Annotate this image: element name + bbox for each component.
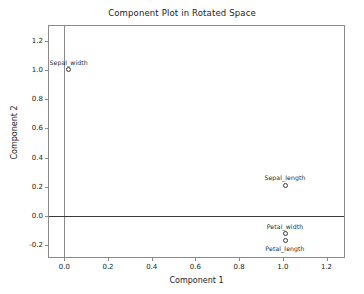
y-axis-title: Component 2 [10, 83, 19, 183]
x-tick-mark [152, 257, 153, 261]
x-axis-title: Component 1 [48, 276, 345, 285]
y-tick-label: 1.2 [32, 37, 43, 45]
y-tick-label: -0.2 [29, 241, 43, 249]
component-plot-figure: Component Plot in Rotated Space 0.00.20.… [0, 0, 364, 294]
y-tick-label: 0.4 [32, 154, 43, 162]
chart-title: Component Plot in Rotated Space [0, 8, 364, 18]
data-point-label: Sepal_length [264, 174, 305, 181]
x-tick-mark [327, 257, 328, 261]
y-tick-label: 0.6 [32, 124, 43, 132]
data-point[interactable] [66, 67, 71, 72]
x-tick-label: 0.8 [234, 263, 245, 271]
y-tick-label: 1.0 [32, 66, 43, 74]
y-tick-label: 0.2 [32, 183, 43, 191]
reference-line-horizontal [49, 216, 344, 217]
data-point[interactable] [283, 231, 288, 236]
x-tick-mark [239, 257, 240, 261]
data-point[interactable] [283, 183, 288, 188]
x-tick-mark [195, 257, 196, 261]
x-tick-label: 0.2 [102, 263, 113, 271]
data-point-label: Petal_length [265, 245, 304, 252]
x-tick-mark [64, 257, 65, 261]
data-point-label: Sepal_width [49, 59, 87, 66]
x-tick-label: 0.0 [59, 263, 70, 271]
x-tick-mark [108, 257, 109, 261]
y-tick-mark [45, 158, 49, 159]
y-tick-mark [45, 128, 49, 129]
y-tick-mark [45, 41, 49, 42]
x-tick-label: 0.4 [146, 263, 157, 271]
data-point[interactable] [283, 238, 288, 243]
y-tick-mark [45, 187, 49, 188]
x-tick-label: 1.0 [277, 263, 288, 271]
data-point-label: Petal_width [267, 223, 304, 230]
y-tick-mark [45, 99, 49, 100]
y-tick-mark [45, 70, 49, 71]
x-tick-mark [283, 257, 284, 261]
y-tick-label: 0.8 [32, 95, 43, 103]
y-tick-label: 0.0 [32, 212, 43, 220]
x-tick-label: 0.6 [190, 263, 201, 271]
plot-area: 0.00.20.40.60.81.01.2-0.20.00.20.40.60.8… [48, 25, 345, 258]
y-tick-mark [45, 216, 49, 217]
x-tick-label: 1.2 [321, 263, 332, 271]
y-tick-mark [45, 245, 49, 246]
